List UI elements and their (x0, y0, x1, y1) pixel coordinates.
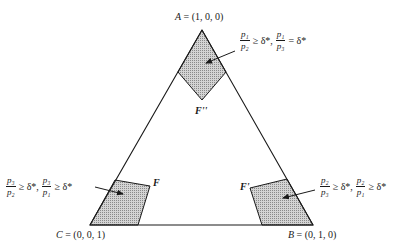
region-f-double-prime (178, 30, 226, 100)
condition-right: p₂ p₃ ≥ δ*, p₂ p₁ ≥ δ* (320, 176, 386, 197)
condition-top: p₁ p₂ ≥ δ*, p₁ p₃ = δ* (240, 30, 306, 51)
fraction: p₂ p₃ (320, 176, 330, 197)
simplex-diagram (0, 0, 415, 248)
region-f (90, 180, 150, 225)
condition-left: p₃ p₂ ≥ δ*, p₃ p₁ ≥ δ* (6, 176, 72, 197)
region-f-double-prime-label: F'' (195, 106, 207, 116)
vertex-b-label: B = (0, 1, 0) (288, 230, 336, 240)
vertex-c-label: C = (0, 0, 1) (56, 230, 105, 240)
fraction: p₁ p₂ (240, 30, 250, 51)
fraction: p₃ p₂ (6, 176, 16, 197)
fraction: p₂ p₁ (356, 176, 366, 197)
region-f-label: F (153, 178, 160, 188)
fraction: p₁ p₃ (276, 30, 286, 51)
vertex-a-label: A = (1, 0, 0) (175, 12, 223, 22)
region-f-prime-label: F' (240, 182, 249, 192)
fraction: p₃ p₁ (42, 176, 52, 197)
region-f-prime (250, 179, 313, 225)
